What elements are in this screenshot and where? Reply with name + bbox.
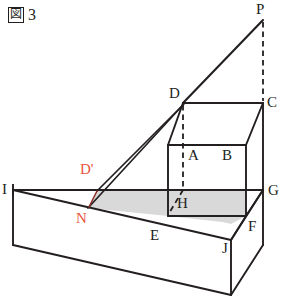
vertex-label-D: D (169, 86, 180, 101)
vertex-label-E: E (150, 228, 159, 243)
vertex-label-C: C (267, 95, 277, 110)
vertex-label-H: H (177, 196, 188, 211)
edge-D-A (168, 103, 183, 145)
edge-C-B (246, 103, 263, 145)
vertex-label-F: F (248, 219, 256, 234)
vertex-label-B: B (222, 148, 232, 163)
vertex-label-G: G (268, 183, 279, 198)
slab-right-lower-edge (231, 245, 263, 295)
edge-F-G (246, 190, 263, 216)
geometry-drawing (0, 0, 289, 307)
hidden-edges (168, 22, 263, 215)
apex-lines (183, 20, 263, 103)
vertex-label-P: P (256, 2, 264, 17)
vertex-label-A: A (188, 148, 199, 163)
vertex-label-I: I (2, 182, 7, 197)
slab-bottom-front (13, 245, 231, 295)
vertex-label-J: J (222, 241, 228, 256)
vertex-label-N: N (76, 211, 87, 226)
vertex-label-D-prime: D' (80, 162, 94, 177)
figure-container: 図 3 (0, 0, 289, 307)
edge-D-P (183, 20, 263, 103)
